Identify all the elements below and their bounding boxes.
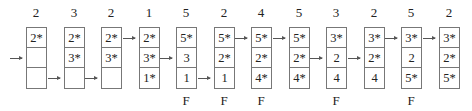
frame-stack: 2* [26, 27, 47, 89]
frame-cell: 2 [327, 48, 346, 68]
clock-pointer-arrow-icon [348, 58, 360, 59]
reference-label: 3 [326, 6, 346, 20]
frame-cell: 4* [252, 68, 271, 88]
frame-cell: 5* [252, 28, 271, 48]
frame-cell: 3* [440, 28, 459, 48]
frame-stack: 5*31 [176, 27, 197, 89]
frame-cell: 2* [27, 28, 46, 48]
frame-cell: 2* [290, 48, 309, 68]
frame-cell: 2* [252, 48, 271, 68]
reference-label: 2 [101, 6, 121, 20]
frame-cell: 4* [290, 68, 309, 88]
frame-cell: 2* [140, 28, 159, 48]
clock-pointer-arrow-icon [85, 78, 97, 79]
reference-label: 2 [439, 6, 459, 20]
clock-pointer-arrow-icon [10, 58, 22, 59]
page-fault-marker: F [251, 94, 271, 108]
frame-cell: 5* [290, 28, 309, 48]
frame-cell: 2* [102, 28, 121, 48]
frame-cell [102, 68, 121, 88]
frame-cell: 3 [177, 48, 196, 68]
reference-label: 3 [64, 6, 84, 20]
reference-label: 4 [251, 6, 271, 20]
frame-cell: 2* [440, 48, 459, 68]
clock-pointer-arrow-icon [235, 38, 247, 39]
frame-stack: 2*3* [101, 27, 122, 89]
reference-label: 5 [401, 6, 421, 20]
page-fault-marker: F [326, 94, 346, 108]
page-fault-marker: F [214, 94, 234, 108]
frame-cell: 3* [102, 48, 121, 68]
reference-label: 2 [364, 6, 384, 20]
clock-pointer-arrow-icon [123, 38, 135, 39]
frame-stack: 5*2*4* [251, 27, 272, 89]
frame-stack: 3*25* [401, 27, 422, 89]
reference-label: 5 [176, 6, 196, 20]
frame-stack: 3*2*4 [364, 27, 385, 89]
clock-pointer-arrow-icon [198, 78, 210, 79]
frame-stack: 3*24 [326, 27, 347, 89]
page-fault-marker: F [401, 94, 421, 108]
frame-cell: 5* [215, 28, 234, 48]
frame-stack: 5*2*4* [289, 27, 310, 89]
page-fault-marker: F [176, 94, 196, 108]
frame-cell: 5* [177, 28, 196, 48]
frame-cell: 5* [402, 68, 421, 88]
frame-cell: 2* [215, 48, 234, 68]
frame-stack: 2*3* [64, 27, 85, 89]
frame-cell: 2 [402, 48, 421, 68]
reference-label: 5 [289, 6, 309, 20]
frame-stack: 5*2*1 [214, 27, 235, 89]
frame-cell: 3* [327, 28, 346, 48]
clock-pointer-arrow-icon [273, 38, 285, 39]
frame-cell: 1* [140, 68, 159, 88]
frame-cell: 5* [440, 68, 459, 88]
frame-cell: 3* [65, 48, 84, 68]
frame-cell: 2* [65, 28, 84, 48]
frame-cell: 4 [327, 68, 346, 88]
clock-pointer-arrow-icon [385, 38, 397, 39]
frame-cell: 3* [140, 48, 159, 68]
frame-cell: 2* [365, 48, 384, 68]
frame-cell [27, 68, 46, 88]
frame-stack: 3*2*5* [439, 27, 460, 89]
clock-pointer-arrow-icon [310, 58, 322, 59]
reference-label: 2 [26, 6, 46, 20]
reference-label: 2 [214, 6, 234, 20]
frame-cell: 1 [177, 68, 196, 88]
reference-label: 1 [139, 6, 159, 20]
frame-stack: 2*3*1* [139, 27, 160, 89]
frame-cell: 3* [402, 28, 421, 48]
frame-cell: 4 [365, 68, 384, 88]
frame-cell: 3* [365, 28, 384, 48]
clock-pointer-arrow-icon [160, 58, 172, 59]
frame-cell [27, 48, 46, 68]
clock-pointer-arrow-icon [423, 38, 435, 39]
frame-cell: 1 [215, 68, 234, 88]
clock-pointer-arrow-icon [48, 78, 60, 79]
frame-cell [65, 68, 84, 88]
